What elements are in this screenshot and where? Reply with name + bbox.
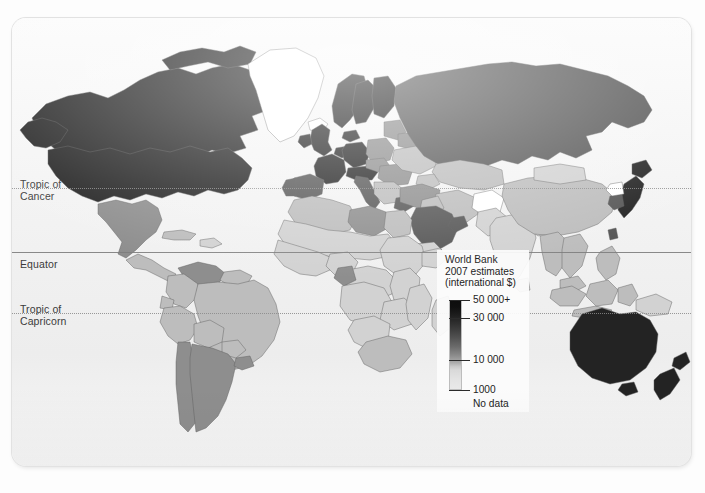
region-portugal xyxy=(282,178,296,196)
region-peru xyxy=(160,306,198,344)
equator-line xyxy=(12,252,691,253)
legend-title: World Bank 2007 estimates (international… xyxy=(445,254,531,289)
region-united-states xyxy=(48,146,252,202)
legend-title-line-2: 2007 estimates xyxy=(445,266,531,278)
world-map[interactable]: .v1{fill:#d2d2d2} /* ~1000–5000 */ .v2{f… xyxy=(12,18,691,466)
region-mongolia xyxy=(534,164,586,184)
legend-label-1000: 1000 xyxy=(473,384,496,395)
region-hispaniola xyxy=(200,238,222,248)
map-frame: .v1{fill:#d2d2d2} /* ~1000–5000 */ .v2{f… xyxy=(12,18,691,466)
region-australia xyxy=(570,308,658,384)
region-vietnam-laos-cambodia xyxy=(562,234,588,278)
region-finland xyxy=(372,76,396,118)
region-ireland xyxy=(298,134,312,148)
region-russia xyxy=(394,62,652,168)
region-new-zealand xyxy=(654,352,690,400)
legend-label-30000: 30 000 xyxy=(473,312,504,323)
region-indonesia-borneo xyxy=(586,280,618,306)
region-cuba xyxy=(162,230,196,240)
region-japan-north xyxy=(632,160,652,178)
legend-label-50000: 50 000+ xyxy=(473,294,510,305)
map-page: .v1{fill:#d2d2d2} /* ~1000–5000 */ .v2{f… xyxy=(0,0,705,493)
legend-tick-10000 xyxy=(449,360,470,361)
legend-label-no-data: No data xyxy=(473,398,509,409)
region-argentina xyxy=(190,344,236,432)
legend-title-line-1: World Bank xyxy=(445,254,531,266)
legend-tick-1000 xyxy=(449,390,470,391)
tropic-of-cancer-label: Tropic of Cancer xyxy=(20,178,61,202)
map-legend: World Bank 2007 estimates (international… xyxy=(437,250,529,412)
legend-label-10000: 10 000 xyxy=(473,354,504,365)
region-tasmania xyxy=(618,382,638,396)
tropic-of-cancer-line xyxy=(12,188,691,189)
legend-gradient-bar xyxy=(449,300,462,390)
tropic-of-capricorn-line xyxy=(12,313,691,314)
region-canada-arctic-islands xyxy=(162,46,256,70)
region-libya xyxy=(348,206,388,236)
legend-tick-30000 xyxy=(449,318,470,319)
region-indonesia-sulawesi xyxy=(618,284,638,306)
region-taiwan xyxy=(608,228,618,240)
region-egypt xyxy=(384,210,412,238)
tropic-of-capricorn-label: Tropic of Capricorn xyxy=(20,303,66,327)
region-denmark xyxy=(342,130,360,142)
legend-tick-50000 xyxy=(449,300,470,301)
region-kazakhstan xyxy=(432,160,504,190)
map-landmasses xyxy=(20,46,690,432)
region-mexico xyxy=(98,200,162,258)
equator-label: Equator xyxy=(20,258,57,270)
region-indonesia-sumatra xyxy=(550,286,586,306)
legend-title-line-3: (international $) xyxy=(445,277,531,289)
